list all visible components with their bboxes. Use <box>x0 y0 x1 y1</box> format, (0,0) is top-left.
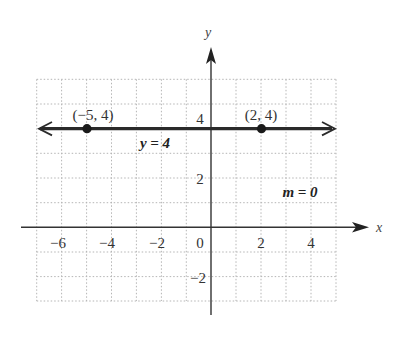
x-axis <box>21 222 369 233</box>
x-tick-label: 0 <box>196 235 204 251</box>
slope-label: m = 0 <box>282 184 318 200</box>
y-tick-label: 2 <box>196 171 204 187</box>
y-tick-label: −2 <box>190 270 206 286</box>
point-label: (2, 4) <box>245 107 278 124</box>
x-axis-label: x <box>375 220 383 235</box>
equation-label: y = 4 <box>138 135 171 151</box>
graph-canvas: x y −6 −4 −2 0 2 4 4 2 −2 (−5, 4) (2, 4)… <box>0 0 402 339</box>
x-tick-label: −4 <box>99 235 115 251</box>
x-tick-label: −2 <box>149 235 165 251</box>
y-axis-label: y <box>203 25 212 40</box>
x-tick-label: 4 <box>307 235 315 251</box>
x-tick-label: −6 <box>50 235 66 251</box>
x-tick-label: 2 <box>257 235 265 251</box>
point-label: (−5, 4) <box>73 107 114 124</box>
point-neg5-4 <box>82 124 91 133</box>
y-tick-label: 4 <box>196 111 204 127</box>
point-2-4 <box>257 124 266 133</box>
y-axis <box>206 47 216 315</box>
